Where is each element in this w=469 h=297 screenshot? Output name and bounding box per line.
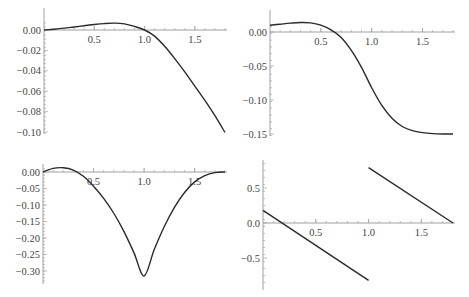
x-tick-label: 0.5: [314, 36, 327, 47]
x-tick-label: 1.5: [415, 227, 428, 238]
y-tick-label: −0.10: [16, 200, 40, 211]
y-tick-label: −0.04: [17, 65, 42, 76]
y-tick-label: −0.15: [243, 129, 267, 140]
x-tick-label: 1.0: [138, 176, 151, 187]
plot-top-right: 0.51.01.50.00−0.05−0.10−0.15: [243, 10, 455, 140]
x-tick-label: 1.0: [365, 36, 378, 47]
y-tick-label: −0.02: [17, 45, 41, 56]
y-tick-label: −0.10: [17, 127, 41, 138]
y-tick-label: 0.00: [22, 167, 40, 178]
y-tick-label: 0.00: [23, 25, 41, 36]
series-line-f4-segment-2: [369, 168, 453, 223]
plot-bottom-right: 0.51.01.50.50.0−0.5: [241, 160, 455, 290]
y-tick-label: −0.15: [16, 216, 40, 227]
y-tick-label: −0.20: [16, 233, 40, 244]
y-tick-label: −0.30: [16, 266, 40, 277]
plot-grid: 0.51.01.50.00−0.02−0.04−0.06−0.08−0.10 0…: [0, 0, 469, 297]
x-tick-label: 1.0: [362, 227, 375, 238]
x-tick-label: 0.5: [309, 227, 322, 238]
y-tick-label: −0.25: [16, 249, 40, 260]
x-tick-label: 0.5: [88, 34, 101, 45]
y-tick-label: −0.05: [243, 61, 267, 72]
plot-top-left: 0.51.01.50.00−0.02−0.04−0.06−0.08−0.10: [17, 8, 227, 138]
y-tick-label: −0.06: [17, 86, 41, 97]
y-tick-label: 0.00: [249, 27, 267, 38]
y-tick-label: −0.08: [17, 106, 41, 117]
y-tick-label: −0.5: [241, 253, 260, 264]
x-tick-label: 1.5: [188, 34, 201, 45]
y-tick-label: 0.5: [247, 183, 260, 194]
y-tick-label: −0.10: [243, 95, 267, 106]
y-tick-label: 0.0: [247, 218, 260, 229]
y-tick-label: −0.05: [16, 183, 40, 194]
x-tick-label: 1.0: [138, 34, 151, 45]
x-tick-label: 1.5: [416, 36, 429, 47]
plot-bottom-left: 0.51.01.50.00−0.05−0.10−0.15−0.20−0.25−0…: [16, 164, 227, 284]
